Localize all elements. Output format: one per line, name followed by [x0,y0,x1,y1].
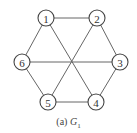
caption-subscript: 1 [77,122,81,130]
node-3: 3 [112,54,128,70]
figure-caption: (a) G1 [0,116,137,130]
node-label: 5 [45,97,51,109]
node-1: 1 [38,10,54,26]
node-label: 2 [94,13,100,25]
node-label: 3 [117,57,123,69]
node-4: 4 [88,94,104,110]
node-label: 6 [19,57,25,69]
edge-1-4 [46,18,96,102]
caption-prefix: (a) [56,116,70,127]
node-label: 1 [43,13,49,25]
edge-2-5 [48,18,97,102]
edges-group [22,18,120,102]
node-label: 4 [93,97,99,109]
node-2: 2 [89,10,105,26]
node-6: 6 [14,54,30,70]
graph-diagram: 123456 [0,0,137,133]
node-5: 5 [40,94,56,110]
